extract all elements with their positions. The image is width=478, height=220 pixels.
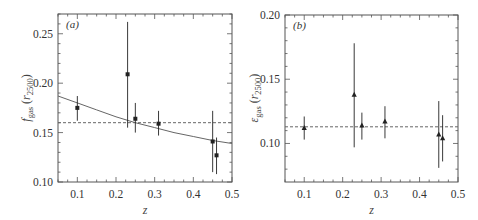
chart-canvas: 0.10.20.30.40.50.100.150.200.25zfgas (r2…: [0, 0, 478, 220]
y-tick-label: 0.20: [260, 9, 280, 21]
data-point-triangle: [302, 125, 307, 130]
data-point-triangle: [352, 92, 357, 97]
data-point-triangle: [382, 119, 387, 124]
data-point-square: [133, 117, 137, 121]
panel-a: 0.10.20.30.40.50.100.150.200.25zfgas (r2…: [19, 14, 239, 217]
panel-b: 0.10.20.30.40.50.100.150.20zεgas (r2500)…: [247, 9, 465, 217]
fit-curve-line: [58, 96, 232, 144]
x-axis-label: z: [368, 203, 374, 217]
y-tick-label: 0.25: [33, 28, 53, 40]
data-point-square: [75, 106, 79, 110]
data-point-square: [215, 153, 219, 157]
x-tick-label: 0.5: [451, 188, 466, 200]
y-tick-label: 0.15: [33, 127, 53, 139]
plot-frame: [285, 15, 458, 182]
data-point-square: [126, 72, 130, 76]
x-tick-label: 0.1: [70, 188, 85, 200]
x-tick-label: 0.5: [225, 188, 240, 200]
x-tick-label: 0.2: [335, 188, 350, 200]
y-tick-label: 0.10: [33, 176, 53, 188]
y-tick-label: 0.10: [260, 137, 280, 149]
plot-frame: [58, 14, 232, 182]
y-axis-label: fgas (r2500): [19, 74, 35, 121]
data-point-triangle: [359, 122, 364, 127]
x-tick-label: 0.1: [297, 188, 312, 200]
x-tick-label: 0.4: [412, 188, 427, 200]
panel-label: (b): [293, 19, 306, 32]
data-point-square: [211, 139, 215, 143]
data-point-triangle: [436, 131, 441, 136]
x-tick-label: 0.2: [109, 188, 124, 200]
y-axis-label: εgas (r2500): [247, 74, 263, 123]
x-tick-label: 0.4: [186, 188, 201, 200]
figure: 0.10.20.30.40.50.100.150.200.25zfgas (r2…: [0, 0, 478, 220]
x-tick-label: 0.3: [147, 188, 162, 200]
y-tick-label: 0.20: [33, 77, 53, 89]
x-axis-label: z: [142, 203, 148, 217]
data-point-square: [157, 122, 161, 126]
panel-label: (a): [66, 18, 79, 31]
x-tick-label: 0.3: [374, 188, 389, 200]
